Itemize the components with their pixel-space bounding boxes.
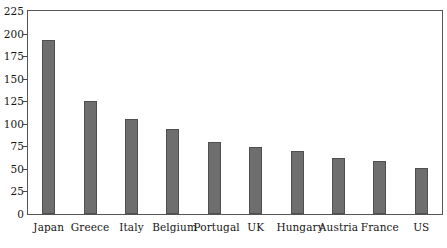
bar — [249, 147, 262, 214]
y-tick-label: 25 — [0, 186, 24, 197]
y-tick-label: 225 — [0, 6, 24, 17]
x-tick-label: Belgium — [152, 221, 193, 234]
y-tick-label: 150 — [0, 74, 24, 85]
bar — [415, 168, 428, 214]
x-tick-label: Hungary — [276, 221, 317, 234]
x-axis-labels: JapanGreeceItalyBelgiumPortugalUKHungary… — [27, 221, 443, 245]
x-tick-label: Portugal — [194, 221, 235, 234]
bar — [208, 142, 221, 214]
x-tick-label: US — [401, 221, 442, 234]
bar — [166, 129, 179, 214]
y-axis-labels: 225 200 175 150 125 100 75 50 25 0 — [0, 0, 24, 248]
x-tick-label: Italy — [111, 221, 152, 234]
bar — [125, 119, 138, 214]
bars-layer — [28, 11, 442, 214]
y-tick-label: 75 — [0, 141, 24, 152]
y-tick-label: 125 — [0, 96, 24, 107]
bar — [84, 101, 97, 214]
bar-chart: 225 200 175 150 125 100 75 50 25 0 Japan… — [0, 0, 447, 248]
bar — [291, 151, 304, 214]
y-tick-label: 175 — [0, 51, 24, 62]
y-tick-label: 0 — [0, 209, 24, 220]
y-tick-label: 50 — [0, 164, 24, 175]
x-tick-label: Greece — [69, 221, 110, 234]
bar — [42, 40, 55, 214]
x-tick-label: Austria — [318, 221, 359, 234]
bar — [373, 161, 386, 214]
x-tick-label: UK — [235, 221, 276, 234]
bar — [332, 158, 345, 214]
x-tick-label: Japan — [28, 221, 69, 234]
x-tick-label: France — [359, 221, 400, 234]
y-tick-label: 100 — [0, 119, 24, 130]
y-tick-label: 200 — [0, 29, 24, 40]
